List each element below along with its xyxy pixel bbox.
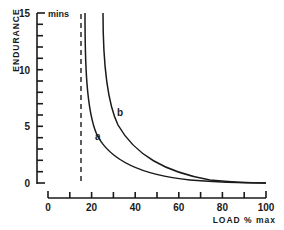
curve-a [85, 13, 266, 183]
x-tick-60: 60 [173, 202, 185, 213]
y-tick-0: 0 [24, 178, 30, 189]
x-axis [48, 191, 266, 198]
endurance-load-chart: 15 10 5 0 mins ENDURANCE 0 20 40 60 80 1… [0, 0, 284, 230]
y-axis [37, 13, 45, 184]
curve-b [103, 13, 266, 183]
y-unit-label: mins [48, 9, 69, 19]
y-axis-title: ENDURANCE [11, 8, 21, 71]
x-tick-20: 20 [86, 202, 98, 213]
curve-b-label: b [117, 107, 123, 118]
x-tick-100: 100 [258, 202, 275, 213]
x-axis-title: LOAD % max [213, 215, 276, 225]
x-tick-40: 40 [130, 202, 142, 213]
x-tick-80: 80 [217, 202, 229, 213]
x-tick-0: 0 [45, 202, 51, 213]
y-tick-5: 5 [24, 121, 30, 132]
curve-a-label: a [95, 131, 101, 142]
